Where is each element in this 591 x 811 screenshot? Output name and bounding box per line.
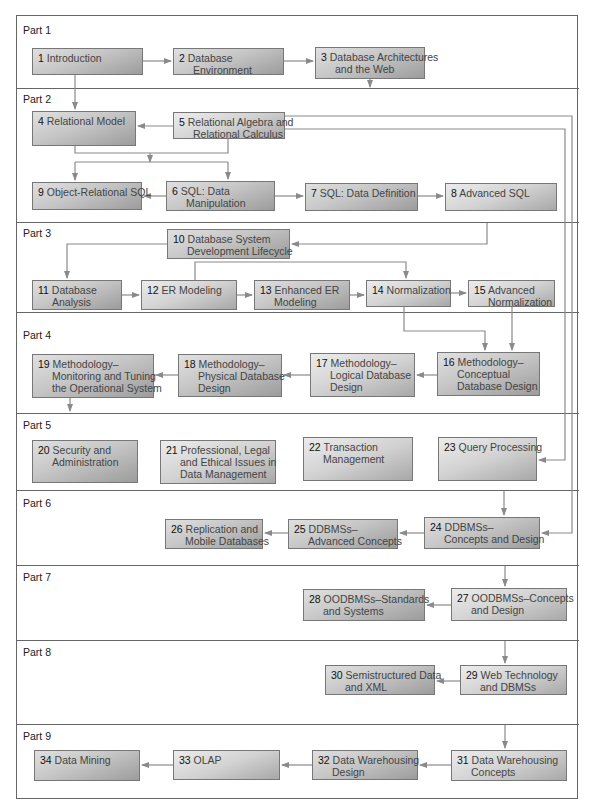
chapter-title: Methodology–: [53, 358, 119, 370]
chapter-box-9[interactable]: 9 Object-Relational SQL: [32, 182, 142, 210]
chapter-title-line2: and XML: [331, 681, 429, 693]
chapter-box-34[interactable]: 34 Data Mining: [34, 750, 140, 781]
chapter-title-line2: Manipulation: [172, 197, 269, 209]
chapter-title: SQL: Data Definition: [320, 187, 416, 199]
chapter-box-3[interactable]: 3 Database Architectures and the Web: [315, 47, 425, 79]
part-label-2: Part 2: [23, 93, 51, 105]
chapter-box-10[interactable]: 10 Database System Development Lifecycle: [167, 229, 290, 259]
chapter-number: 30: [331, 669, 343, 681]
chapter-box-8[interactable]: 8 Advanced SQL: [445, 183, 557, 211]
chapter-title: Web Technology: [481, 669, 558, 681]
chapter-number: 10: [173, 233, 185, 245]
chapter-box-1[interactable]: 1 Introduction: [32, 48, 143, 75]
chapter-number: 17: [316, 357, 328, 369]
chapter-number: 31: [457, 754, 469, 766]
part-label-5: Part 5: [23, 419, 51, 431]
chapter-box-14[interactable]: 14 Normalization: [366, 280, 451, 307]
chapter-box-5[interactable]: 5 Relational Algebra and Relational Calc…: [173, 112, 285, 139]
chapter-title-line2: Normalization: [474, 296, 549, 308]
chapter-title-line2: and Design: [457, 604, 561, 616]
chapter-title-line2: Environment: [179, 64, 278, 76]
chapter-box-33[interactable]: 33 OLAP: [173, 750, 280, 780]
chapter-box-29[interactable]: 29 Web Technology and DBMSs: [460, 665, 567, 695]
chapter-number: 23: [444, 441, 456, 453]
chapter-box-16[interactable]: 16 Methodology– Conceptual Database Desi…: [437, 352, 540, 396]
chapter-box-21[interactable]: 21 Professional, Legal and Ethical Issue…: [160, 440, 276, 484]
chapter-title: Semistructured Data: [346, 669, 442, 681]
chapter-number: 2: [179, 52, 185, 64]
chapter-number: 7: [311, 187, 317, 199]
chapter-number: 3: [321, 51, 327, 63]
part-divider: [16, 413, 579, 414]
chapter-title-line2: Logical Database: [316, 369, 409, 381]
chapter-box-20[interactable]: 20 Security and Administration: [32, 440, 138, 483]
chapter-title-line3: Database Design: [443, 380, 534, 392]
chapter-box-26[interactable]: 26 Replication and Mobile Databases: [165, 519, 263, 549]
chapter-title: Enhanced ER: [275, 284, 340, 296]
chapter-box-31[interactable]: 31 Data Warehousing Concepts: [451, 750, 567, 781]
chapter-title: Data Mining: [55, 754, 111, 766]
chapter-number: 19: [38, 358, 50, 370]
chapter-title-line2: and DBMSs: [466, 681, 561, 693]
chapter-title: Security and: [53, 444, 111, 456]
chapter-box-4[interactable]: 4 Relational Model: [32, 111, 136, 146]
chapter-box-28[interactable]: 28 OODBMSs–Standards and Systems: [303, 589, 425, 621]
chapter-box-12[interactable]: 12 ER Modeling: [141, 280, 237, 310]
chapter-number: 4: [38, 115, 44, 127]
chapter-box-18[interactable]: 18 Methodology– Physical Database Design: [178, 354, 282, 397]
chapter-number: 11: [38, 284, 49, 296]
chapter-box-27[interactable]: 27 OODBMSs–Concepts and Design: [451, 588, 567, 621]
part-label-9: Part 9: [23, 730, 51, 742]
chapter-box-25[interactable]: 25 DDBMSs– Advanced Concepts: [288, 519, 398, 549]
chapter-title-line2: Relational Calculus: [179, 128, 279, 140]
part-divider: [16, 724, 579, 725]
chapter-box-30[interactable]: 30 Semistructured Data and XML: [325, 665, 435, 695]
chapter-number: 8: [451, 187, 457, 199]
chapter-title: OODBMSs–Concepts: [472, 592, 574, 604]
chapter-box-17[interactable]: 17 Methodology– Logical Database Design: [310, 353, 415, 397]
chapter-number: 9: [38, 186, 44, 198]
chapter-title: Methodology–: [331, 357, 397, 369]
chapter-box-22[interactable]: 22 Transaction Management: [303, 437, 413, 481]
chapter-title: Methodology–: [458, 356, 524, 368]
chapter-box-23[interactable]: 23 Query Processing: [438, 437, 537, 481]
chapter-title-line2: Concepts and Design: [430, 533, 534, 545]
part-divider: [16, 88, 579, 89]
chapter-title-line3: Design: [316, 381, 409, 393]
chapter-box-2[interactable]: 2 Database Environment: [173, 48, 284, 75]
chapter-box-13[interactable]: 13 Enhanced ER Modeling: [254, 280, 350, 310]
chapter-box-6[interactable]: 6 SQL: Data Manipulation: [166, 181, 275, 211]
chapter-box-15[interactable]: 15 Advanced Normalization: [468, 280, 555, 307]
chapter-number: 20: [38, 444, 50, 456]
chapter-number: 27: [457, 592, 469, 604]
chapter-box-7[interactable]: 7 SQL: Data Definition: [305, 183, 418, 211]
chapter-title-line2: and the Web: [321, 63, 419, 75]
chapter-box-32[interactable]: 32 Data Warehousing Design: [312, 750, 418, 780]
chapter-title-line2: Management: [309, 453, 407, 465]
chapter-number: 16: [443, 356, 455, 368]
chapter-title: Relational Model: [47, 115, 125, 127]
chapter-number: 18: [184, 358, 196, 370]
chapter-title-line2: Design: [318, 766, 412, 778]
chapter-title: Relational Algebra and: [188, 116, 294, 128]
chapter-title-line2: Analysis: [38, 296, 116, 308]
chapter-title: Object-Relational SQL: [47, 186, 151, 198]
part-label-4: Part 4: [23, 329, 51, 341]
chapter-title: Professional, Legal: [181, 444, 270, 456]
chapter-number: 33: [179, 754, 191, 766]
part-divider: [16, 222, 579, 223]
chapter-number: 21: [166, 444, 178, 456]
chapter-box-19[interactable]: 19 Methodology– Monitoring and Tuning th…: [32, 354, 154, 398]
chapter-number: 26: [171, 523, 183, 535]
chapter-box-11[interactable]: 11 Database Analysis: [32, 280, 122, 310]
chapter-title: Data Warehousing: [333, 754, 420, 766]
chapter-number: 25: [294, 523, 306, 535]
chapter-title: Advanced: [488, 284, 535, 296]
chapter-number: 24: [430, 521, 442, 533]
chapter-title-line2: Advanced Concepts: [294, 535, 392, 547]
chapter-title-line2: and Ethical Issues in: [166, 456, 270, 468]
chapter-title: Introduction: [47, 52, 102, 64]
chapter-number: 14: [372, 284, 384, 296]
chapter-number: 1: [38, 52, 44, 64]
chapter-box-24[interactable]: 24 DDBMSs– Concepts and Design: [424, 517, 540, 549]
